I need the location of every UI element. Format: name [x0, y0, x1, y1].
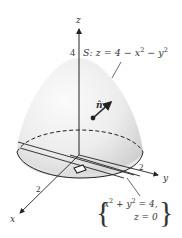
surface-equation-label: S: z = 4 − x2 − y2	[83, 46, 168, 58]
x-axis-label: x	[10, 214, 15, 224]
normal-vector-label: n̂	[96, 100, 103, 110]
boundary-equation-line1: x2 + y2 = 4,	[104, 197, 158, 209]
paraboloid-diagram: z 4 S: z = 4 − x2 − y2 n̂ 2 y 2 x { x2 +…	[0, 0, 182, 238]
right-brace: }	[159, 195, 173, 228]
x-tick-label: 2	[36, 184, 41, 194]
y-axis-label: y	[162, 173, 169, 183]
surface-leader-line	[112, 62, 121, 78]
boundary-annotation: { x2 + y2 = 4, z = 0 }	[96, 195, 173, 228]
z-tick-label: 4	[70, 47, 75, 58]
z-axis-label: z	[75, 15, 81, 25]
boundary-leader-line	[127, 178, 140, 196]
y-tick-label: 2	[139, 162, 144, 172]
boundary-equation-line2: z = 0	[133, 212, 158, 222]
